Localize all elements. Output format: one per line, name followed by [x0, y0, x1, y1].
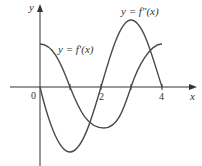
tick-label-4: 4	[159, 91, 164, 102]
x-axis-label: x	[189, 90, 195, 102]
f-double-prime-label: y = f″(x)	[120, 5, 159, 18]
chart-canvas: y x 0 2 4 y = f′(x) y = f″(x)	[0, 0, 202, 166]
f-prime-label: y = f′(x)	[57, 43, 94, 56]
y-axis-arrow-icon	[37, 4, 43, 12]
tick-label-2: 2	[99, 91, 104, 102]
y-axis-label: y	[28, 1, 34, 13]
origin-label: 0	[31, 90, 36, 101]
f-double-prime-curve	[40, 20, 162, 152]
